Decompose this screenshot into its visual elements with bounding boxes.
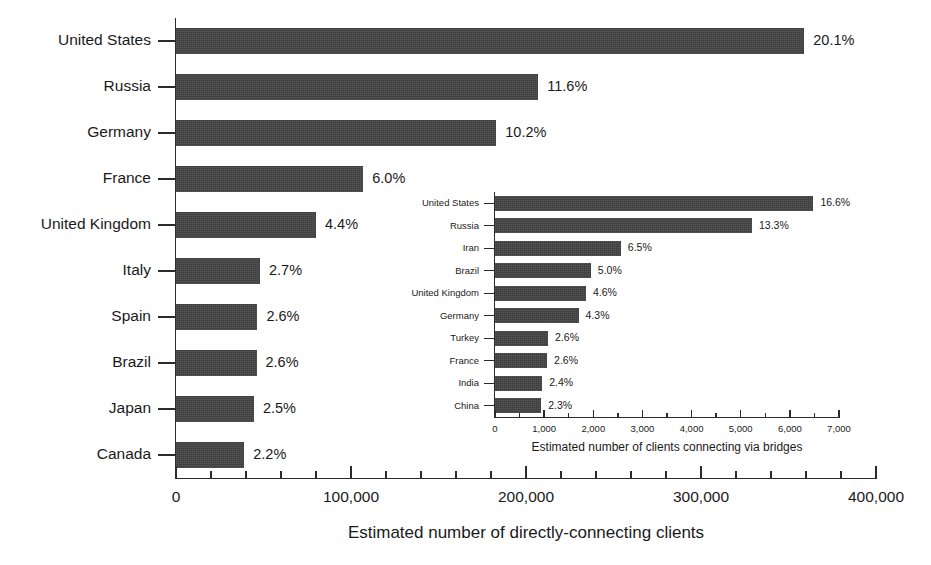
category-label: Turkey (379, 333, 479, 343)
bar-value-label: 2.6% (554, 355, 578, 366)
bar-value-label: 6.5% (628, 242, 652, 253)
y-axis-tick (484, 383, 494, 384)
bar (495, 218, 752, 233)
bar-value-label: 2.3% (548, 400, 572, 411)
x-axis-tick-label: 7,000 (779, 424, 899, 434)
y-axis-tick (484, 270, 494, 271)
bar-value-label: 5.0% (598, 265, 622, 276)
inset-bar-chart: United States16.6%Russia13.3%Iran6.5%Bra… (0, 0, 931, 565)
bar-value-label: 13.3% (759, 220, 789, 231)
bar-value-label: 2.6% (555, 332, 579, 343)
y-axis-tick (484, 203, 494, 204)
category-label: United States (379, 198, 479, 208)
category-label: India (379, 378, 479, 388)
bar (495, 331, 548, 346)
x-axis-minor-tick (765, 413, 766, 417)
bar-value-label: 4.3% (586, 310, 610, 321)
x-axis-major-tick (740, 410, 741, 417)
y-axis-tick (484, 225, 494, 226)
x-axis-minor-tick (519, 413, 520, 417)
inset-x-axis-title: Estimated number of clients connecting v… (495, 441, 839, 453)
category-label: Germany (379, 311, 479, 321)
bar (495, 241, 621, 256)
bar-value-label: 4.6% (593, 287, 617, 298)
y-axis-tick (484, 248, 494, 249)
category-label: Iran (379, 243, 479, 253)
x-axis-major-tick (593, 410, 594, 417)
y-axis-tick (484, 405, 494, 406)
x-axis-minor-tick (617, 413, 618, 417)
figure-canvas: United States20.1%Russia11.6%Germany10.2… (0, 0, 931, 565)
x-axis-major-tick (838, 410, 839, 417)
bar-value-label: 16.6% (820, 197, 850, 208)
category-label: Russia (379, 221, 479, 231)
x-axis-minor-tick (568, 413, 569, 417)
x-axis-major-tick (691, 410, 692, 417)
x-axis-minor-tick (715, 413, 716, 417)
bar (495, 286, 586, 301)
y-axis-tick (484, 293, 494, 294)
bar (495, 376, 542, 391)
category-label: United Kingdom (379, 288, 479, 298)
x-axis-minor-tick (814, 413, 815, 417)
y-axis-tick (484, 338, 494, 339)
x-axis-major-tick (789, 410, 790, 417)
y-axis-tick (484, 360, 494, 361)
bar (495, 196, 813, 211)
bar (495, 308, 579, 323)
bar (495, 263, 591, 278)
x-axis-line (494, 417, 840, 418)
y-axis-tick (484, 315, 494, 316)
category-label: Brazil (379, 266, 479, 276)
x-axis-minor-tick (666, 413, 667, 417)
x-axis-major-tick (543, 410, 544, 417)
category-label: China (379, 401, 479, 411)
bar (495, 398, 541, 413)
x-axis-major-tick (642, 410, 643, 417)
bar (495, 353, 547, 368)
category-label: France (379, 356, 479, 366)
x-axis-major-tick (494, 410, 495, 417)
bar-value-label: 2.4% (549, 377, 573, 388)
